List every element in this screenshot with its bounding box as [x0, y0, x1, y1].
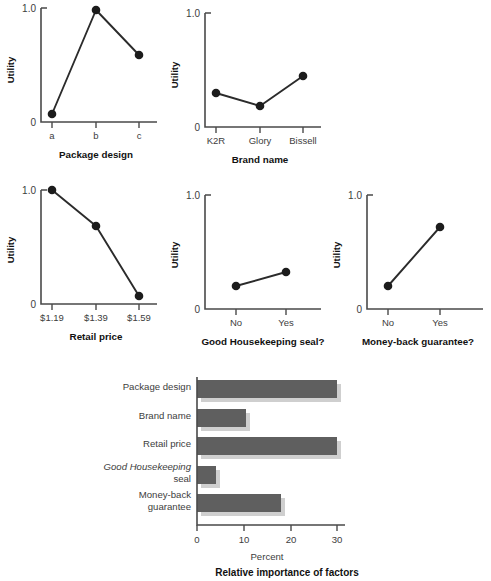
x-tick-label-c: c: [137, 130, 142, 141]
y-tick-top-package-design: 1.0: [22, 3, 36, 14]
y-axis-title-brand-name: Utility: [169, 61, 180, 88]
x-axis-title-percent: Percent: [250, 551, 283, 562]
x-tick-label-no: No: [230, 317, 242, 328]
x-axis-title-money-back: Money-back guarantee?: [362, 336, 474, 347]
data-point: [212, 89, 221, 98]
axis-retail-price: [41, 190, 157, 304]
x-tick-label-yes: Yes: [432, 317, 448, 328]
y-tick-top-brand-name: 1.0: [186, 8, 200, 19]
axis-brand-name: [205, 13, 321, 127]
chart-brand-name: Utility 1.0 0 K2R Glory Bissell Brand na…: [169, 8, 321, 165]
chart-retail-price: Utility 1.0 0 $1.19 $1.39 $1.59 Retail p…: [5, 185, 157, 342]
x-axis-title-gh-seal: Good Housekeeping seal?: [201, 336, 324, 347]
y-tick-bottom-package-design: 0: [30, 117, 36, 128]
bar-brand-name: [197, 409, 246, 427]
x-tick-label-0: 0: [194, 534, 199, 545]
x-tick-label-139: $1.39: [84, 312, 108, 323]
series-line-brand-name: [216, 76, 303, 106]
axis-gh-seal: [205, 195, 321, 309]
y-axis-title-gh-seal: Utility: [169, 241, 180, 268]
data-point: [135, 51, 144, 60]
x-tick-label-119: $1.19: [40, 312, 64, 323]
x-tick-label-yes: Yes: [278, 317, 294, 328]
x-tick-label-30: 30: [332, 534, 343, 545]
chart-money-back: Utility 1.0 0 No Yes Money-back guarante…: [331, 190, 483, 347]
x-axis-title-package-design: Package design: [59, 149, 133, 160]
data-point: [232, 282, 241, 291]
x-tick-label-no: No: [382, 317, 394, 328]
x-tick-label-k2r: K2R: [207, 135, 226, 146]
bar-label-money-back-line2: guarantee: [148, 501, 191, 512]
series-line-package-design: [52, 10, 139, 114]
y-axis-title-retail-price: Utility: [5, 236, 16, 263]
y-tick-bottom-retail-price: 0: [30, 299, 36, 310]
bar-label-retail-price: Retail price: [143, 438, 191, 449]
y-axis-title-money-back: Utility: [331, 241, 342, 268]
data-point: [384, 282, 393, 291]
x-tick-label-bissell: Bissell: [289, 135, 316, 146]
data-point: [48, 110, 57, 119]
bar-money-back: [197, 494, 281, 512]
bar-label-gh-seal-line2: seal: [173, 473, 191, 484]
data-point: [48, 186, 57, 195]
conjoint-analysis-figure: Utility 1.0 0 a b c Package design Utili…: [0, 0, 491, 581]
y-tick-bottom-brand-name: 0: [194, 122, 200, 133]
x-axis-title-retail-price: Retail price: [70, 331, 123, 342]
y-tick-bottom-gh-seal: 0: [194, 304, 200, 315]
figure-bottom-title: Relative importance of factors: [215, 567, 359, 578]
y-tick-top-money-back: 1.0: [348, 190, 362, 201]
bar-retail-price: [197, 437, 337, 455]
data-point: [92, 222, 101, 231]
data-point: [282, 268, 291, 277]
bar-gh-seal: [197, 466, 216, 484]
data-point: [135, 292, 144, 301]
x-tick-label-b: b: [93, 130, 98, 141]
bar-label-money-back-line1: Money-back: [139, 489, 191, 500]
bar-label-gh-seal-line1: Good Housekeeping: [104, 461, 192, 472]
bar-label-package-design: Package design: [123, 381, 191, 392]
y-tick-top-gh-seal: 1.0: [186, 190, 200, 201]
data-point: [436, 223, 445, 232]
y-axis-title-package-design: Utility: [5, 56, 16, 83]
x-tick-label-10: 10: [239, 534, 250, 545]
series-line-money-back: [388, 227, 440, 286]
bar-package-design: [197, 380, 337, 398]
x-tick-label-a: a: [49, 130, 55, 141]
axis-money-back: [367, 195, 483, 309]
x-tick-label-159: $1.59: [127, 312, 151, 323]
bar-label-brand-name: Brand name: [139, 410, 191, 421]
series-line-gh-seal: [236, 272, 286, 286]
series-line-retail-price: [52, 190, 139, 296]
data-point: [299, 72, 308, 81]
chart-relative-importance: Package design Brand name Retail price G…: [104, 377, 360, 578]
chart-gh-seal: Utility 1.0 0 No Yes Good Housekeeping s…: [169, 190, 325, 347]
y-tick-top-retail-price: 1.0: [22, 185, 36, 196]
data-point: [256, 102, 265, 111]
x-tick-label-glory: Glory: [249, 135, 272, 146]
x-tick-label-20: 20: [286, 534, 297, 545]
y-tick-bottom-money-back: 0: [356, 304, 362, 315]
data-point: [92, 6, 101, 15]
x-axis-title-brand-name: Brand name: [232, 154, 289, 165]
axis-package-design: [41, 8, 157, 122]
chart-package-design: Utility 1.0 0 a b c Package design: [5, 3, 157, 160]
